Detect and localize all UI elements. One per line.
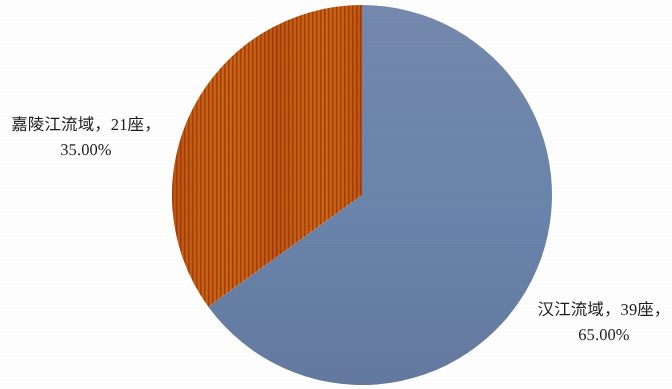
pie-label-jialingjiang: 嘉陵江流域，21座， 35.00% [2,112,170,162]
pie-label-jialingjiang-line1: 嘉陵江流域，21座， [2,112,170,137]
pie-label-jialingjiang-line2: 35.00% [2,137,170,162]
pie-label-hanjiang-line2: 65.00% [528,322,672,347]
pie-chart-figure: 嘉陵江流域，21座， 35.00% 汉江流域，39座， 65.00% [0,0,672,389]
pie-label-hanjiang-line1: 汉江流域，39座， [528,297,672,322]
pie-label-hanjiang: 汉江流域，39座， 65.00% [528,297,672,347]
